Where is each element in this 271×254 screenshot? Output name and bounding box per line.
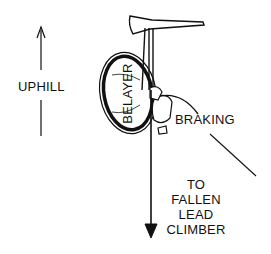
fallen-climber-label: TO FALLEN LEAD CLIMBER: [164, 177, 228, 237]
braking-hand-icon: [150, 87, 172, 134]
fallen-label-line2: FALLEN: [164, 192, 228, 207]
braking-label: BRAKING: [175, 112, 235, 127]
brake-rope-tail: [210, 134, 256, 176]
belayer-label: BELAYER: [120, 59, 135, 129]
ice-axe-icon: [129, 16, 204, 90]
fallen-label-line1: TO: [164, 177, 228, 192]
fallen-label-line3: LEAD: [164, 207, 228, 222]
uphill-label: UPHILL: [18, 79, 65, 94]
fallen-label-line4: CLIMBER: [164, 222, 228, 237]
belay-diagram: [0, 0, 271, 254]
